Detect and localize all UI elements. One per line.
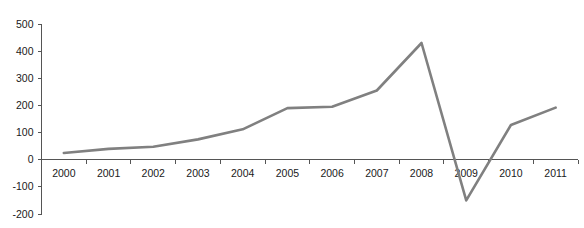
x-tick-label: 2003 [186, 167, 210, 179]
x-tick-label: 2006 [320, 167, 344, 179]
x-tick-label: 2005 [276, 167, 300, 179]
y-tick-label: 200 [16, 99, 34, 111]
x-tick-label: 2004 [231, 167, 255, 179]
y-tick-label: -100 [12, 180, 33, 192]
y-tick-label: 300 [16, 72, 34, 84]
x-tick-label: 2011 [544, 167, 567, 179]
y-axis: 5004003002001000-100-200 [12, 18, 41, 220]
y-tick-label: 0 [28, 153, 34, 165]
y-tick-label: -200 [12, 208, 33, 220]
x-tick-label: 2007 [365, 167, 389, 179]
y-tick-label: 500 [16, 18, 34, 30]
x-tick-label: 2010 [499, 167, 523, 179]
data-series-group [64, 43, 556, 200]
x-axis: 2000200120022003200420052006200720082009… [42, 160, 579, 179]
x-tick-label: 2001 [97, 167, 121, 179]
x-tick-label: 2000 [52, 167, 76, 179]
chart-canvas: 5004003002001000-100-200 200020012002200… [0, 0, 584, 228]
x-tick-label: 2002 [142, 167, 166, 179]
y-tick-label: 400 [16, 45, 34, 57]
line-chart: 5004003002001000-100-200 200020012002200… [0, 0, 584, 228]
x-tick-label: 2008 [410, 167, 434, 179]
data-series-line [64, 43, 556, 200]
y-tick-label: 100 [16, 126, 34, 138]
